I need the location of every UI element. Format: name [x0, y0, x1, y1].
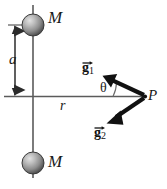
point-p-marker — [143, 94, 147, 98]
dimension-a-arrowhead-top — [12, 26, 18, 34]
mass-top-sphere — [22, 14, 44, 36]
angle-arc — [113, 82, 117, 96]
vector-arrow-icon — [82, 61, 93, 65]
dimension-a-arrowhead-bottom — [12, 88, 18, 96]
diagram-canvas — [0, 0, 167, 189]
g2-symbol: g — [94, 126, 101, 140]
point-p-label: P — [148, 88, 157, 103]
vector-g1-arrow — [103, 74, 145, 95]
g2-subscript: 2 — [101, 130, 106, 141]
g1-symbol: g — [82, 61, 89, 75]
vector-g2-label: g 2 — [94, 126, 106, 141]
vector-g1-label: g 1 — [82, 61, 94, 76]
distance-a-label: a — [9, 52, 17, 67]
angle-theta-label: θ — [100, 81, 107, 95]
mass-bottom-sphere — [22, 152, 44, 174]
vector-g2-arrow — [107, 98, 145, 125]
g1-subscript: 1 — [89, 65, 94, 76]
mass-bottom-label: M — [48, 153, 62, 170]
distance-r-label: r — [60, 99, 65, 113]
mass-top-label: M — [48, 9, 62, 26]
physics-diagram: M M a r P θ g 1 g 2 — [0, 0, 167, 189]
vector-arrow-icon — [94, 126, 105, 130]
